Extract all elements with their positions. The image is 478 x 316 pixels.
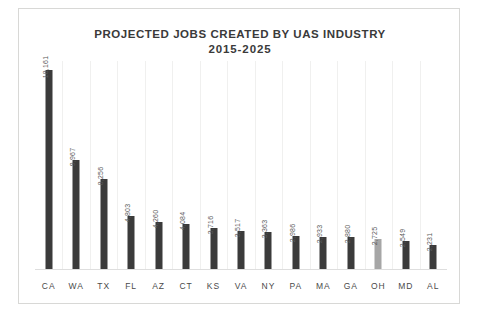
bar-value-label-oh: 2,725 — [371, 227, 378, 246]
category-label: TX — [97, 281, 110, 291]
x-axis-category-labels: CAWATXFLAZCTKSVANYPAMAGAOHMDAL — [35, 275, 447, 295]
chart-figure: PROJECTED JOBS CREATED BY UAS INDUSTRY 2… — [0, 0, 478, 316]
bar-value-label-ks: 3,716 — [207, 216, 214, 235]
chart-subtitle: 2015-2025 — [19, 42, 461, 57]
bar-group-va: 3,517 — [227, 61, 254, 269]
bar-group-al: 2,231 — [420, 61, 447, 269]
chart-frame: PROJECTED JOBS CREATED BY UAS INDUSTRY 2… — [18, 8, 460, 304]
bar-group-ga: 2,880 — [337, 61, 364, 269]
bar-group-fl: 4,803 — [117, 61, 144, 269]
bar-ks[interactable] — [210, 228, 217, 269]
bar-tx[interactable] — [100, 179, 107, 269]
category-label: MD — [398, 281, 413, 291]
category-label: WA — [68, 281, 83, 291]
bar-group-tx: 8,256 — [90, 61, 117, 269]
bar-value-label-az: 4,260 — [152, 210, 159, 229]
bar-value-label-ct: 4,084 — [179, 212, 186, 231]
bar-group-ca: 18,161 — [35, 61, 62, 269]
chart-title-block: PROJECTED JOBS CREATED BY UAS INDUSTRY 2… — [19, 27, 461, 57]
bar-value-label-va: 3,517 — [234, 218, 241, 237]
category-label: MA — [316, 281, 331, 291]
bar-value-label-ca: 18,161 — [42, 56, 49, 79]
bar-value-label-ma: 2,933 — [316, 225, 323, 244]
bar-group-ny: 3,363 — [255, 61, 282, 269]
category-label: FL — [125, 281, 137, 291]
page-title: PROJECTED JOBS CREATED BY UAS INDUSTRY — [19, 27, 461, 42]
bar-az[interactable] — [155, 222, 162, 269]
category-tick-ga: GA — [337, 275, 364, 293]
category-tick-pa: PA — [282, 275, 309, 293]
bar-group-pa: 2,986 — [282, 61, 309, 269]
category-tick-oh: OH — [365, 275, 392, 293]
bar-value-label-ga: 2,880 — [344, 225, 351, 244]
category-tick-md: MD — [392, 275, 419, 293]
category-label: CA — [42, 281, 56, 291]
category-tick-ny: NY — [255, 275, 282, 293]
bar-group-ct: 4,084 — [172, 61, 199, 269]
category-tick-va: VA — [227, 275, 254, 293]
bar-group-ma: 2,933 — [310, 61, 337, 269]
bar-value-label-ny: 3,363 — [261, 220, 268, 239]
category-tick-ma: MA — [310, 275, 337, 293]
category-label: PA — [290, 281, 303, 291]
category-label: VA — [235, 281, 248, 291]
category-label: OH — [371, 281, 386, 291]
x-axis-line — [35, 269, 447, 270]
bar-ct[interactable] — [183, 224, 190, 269]
category-label: NY — [262, 281, 276, 291]
bar-group-wa: 9,967 — [62, 61, 89, 269]
bar-wa[interactable] — [73, 160, 80, 269]
bar-value-label-pa: 2,986 — [289, 224, 296, 243]
bar-value-label-wa: 9,967 — [69, 148, 76, 167]
category-tick-tx: TX — [90, 275, 117, 293]
category-label: GA — [344, 281, 358, 291]
category-tick-ks: KS — [200, 275, 227, 293]
bar-value-label-md: 2,549 — [399, 229, 406, 248]
bar-group-md: 2,549 — [392, 61, 419, 269]
category-label: CT — [179, 281, 192, 291]
bar-value-label-al: 2,231 — [426, 232, 433, 251]
plot-area: 18,1619,9678,2564,8034,2604,0843,7163,51… — [35, 61, 447, 269]
bar-value-label-tx: 8,256 — [97, 166, 104, 185]
category-tick-wa: WA — [62, 275, 89, 293]
category-label: AZ — [152, 281, 165, 291]
category-tick-al: AL — [420, 275, 447, 293]
category-tick-ct: CT — [172, 275, 199, 293]
category-tick-az: AZ — [145, 275, 172, 293]
bar-group-az: 4,260 — [145, 61, 172, 269]
category-label: KS — [207, 281, 220, 291]
bar-value-label-fl: 4,803 — [124, 204, 131, 223]
category-tick-fl: FL — [117, 275, 144, 293]
bar-group-oh: 2,725 — [365, 61, 392, 269]
bar-fl[interactable] — [128, 216, 135, 269]
bar-ca[interactable] — [45, 70, 52, 269]
category-label: AL — [427, 281, 439, 291]
bar-group-ks: 3,716 — [200, 61, 227, 269]
category-tick-ca: CA — [35, 275, 62, 293]
